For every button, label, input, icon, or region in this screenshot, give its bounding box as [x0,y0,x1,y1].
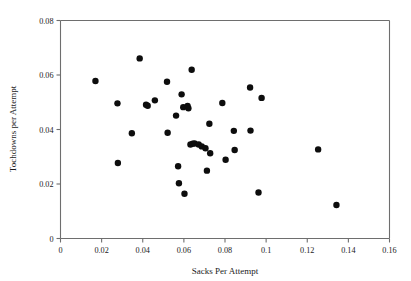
data-point [202,145,208,151]
data-point [315,146,321,152]
data-point [129,130,135,136]
data-point [231,147,237,153]
data-point [247,84,253,90]
x-axis-title: Sacks Per Attempt [192,266,259,276]
data-point [136,55,142,61]
plot-canvas: 00.020.040.060.080.10.120.140.1600.020.0… [0,0,411,281]
data-point [164,130,170,136]
x-tick-label: 0.04 [136,246,150,255]
data-point [152,97,158,103]
data-point [207,150,213,156]
data-point [247,127,253,133]
data-point [219,100,225,106]
x-tick-label: 0.14 [341,246,355,255]
data-point [175,163,181,169]
y-tick-label: 0.08 [39,17,53,26]
data-point [178,91,184,97]
x-tick-label: 0.06 [177,246,191,255]
data-points-group [92,55,339,208]
scatter-plot-figure: 00.020.040.060.080.10.120.140.1600.020.0… [0,0,411,281]
y-tick-label: 0.06 [39,71,53,80]
data-point [258,95,264,101]
x-tick-label: 0.02 [94,246,108,255]
y-axis-title: Tochdowns per Attempt [8,85,18,172]
x-tick-label: 0.1 [261,246,271,255]
data-point [181,191,187,197]
data-point [185,105,191,111]
data-point [164,79,170,85]
axes-group [61,21,390,239]
data-point [114,100,120,106]
data-point [176,180,182,186]
data-point [144,103,150,109]
x-tick-label: 0 [58,246,62,255]
data-point [92,78,98,84]
data-point [333,202,339,208]
data-point [206,121,212,127]
x-tick-label: 0.12 [300,246,314,255]
data-point [255,189,261,195]
ticks-group: 00.020.040.060.080.10.120.140.1600.020.0… [39,17,396,255]
data-point [222,157,228,163]
x-tick-label: 0.16 [382,246,396,255]
data-point [204,167,210,173]
x-tick-label: 0.08 [218,246,232,255]
y-tick-label: 0.04 [39,126,53,135]
data-point [231,128,237,134]
data-point [115,160,121,166]
data-point [173,112,179,118]
y-tick-label: 0.02 [39,180,53,189]
y-tick-label: 0 [49,235,53,244]
data-point [188,67,194,73]
